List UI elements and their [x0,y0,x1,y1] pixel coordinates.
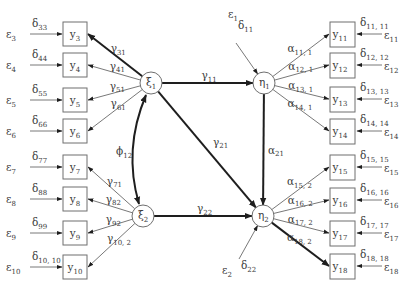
error-variance-delta8: δ88 [32,182,47,197]
loading-label-alpha131: α13, 1 [288,79,313,94]
error-variance-delta12: δ12, 12 [360,47,389,62]
disturbance-label-eps1: ε1 [228,8,238,23]
sem-path-diagram: y3ε3δ33γ31y4ε4δ44γ41y5ε5δ55γ51y6ε6δ66γ61… [0,0,418,292]
error-label-eps14: ε14 [384,126,399,141]
loading-label-gamma71: γ71 [107,175,122,190]
disturbance-variance-delta11: δ11 [238,19,253,34]
error-label-eps7: ε7 [6,161,16,176]
error-variance-delta16: δ16, 16 [360,182,389,197]
error-label-eps10: ε10 [6,261,20,276]
disturbance-arrow-eta1 [236,43,258,74]
error-variance-delta14: δ14, 14 [360,113,389,128]
error-variance-delta7: δ77 [32,150,47,165]
disturbance-variance-delta22: δ22 [241,259,256,274]
structural-label-γ22: γ22 [197,202,212,217]
error-label-eps8: ε8 [6,193,16,208]
error-label-eps12: ε12 [384,60,398,75]
loading-label-alpha141: α14, 1 [287,97,312,112]
error-variance-delta9: δ99 [32,216,47,231]
error-label-eps13: ε13 [384,94,398,109]
structural-label-α21: α21 [268,144,284,159]
error-label-eps9: ε9 [6,227,16,242]
covariance-curve-phi12 [132,95,146,204]
loading-label-alpha152: α15, 2 [287,175,312,190]
structural-label-γ11: γ11 [202,69,217,84]
loading-label-gamma102: γ10, 2 [107,232,131,247]
loading-label-alpha182: α18, 2 [287,231,312,246]
disturbance-arrow-eta2 [239,226,258,259]
error-variance-delta18: δ18, 18 [360,248,389,263]
error-label-eps17: ε17 [384,228,398,243]
loading-label-alpha121: α12, 1 [288,60,313,75]
error-label-eps6: ε6 [6,125,16,140]
error-label-eps4: ε4 [6,59,16,74]
loading-label-alpha162: α16, 2 [288,194,313,209]
error-label-eps16: ε16 [384,195,399,210]
loading-label-alpha111: α11, 1 [287,42,312,57]
error-variance-delta15: δ15, 15 [360,149,389,164]
loading-label-gamma51: γ51 [110,80,125,95]
structural-label-γ21: γ21 [213,136,228,151]
error-label-eps15: ε15 [384,162,398,177]
error-variance-delta6: δ66 [32,114,48,129]
loading-path-gamma61 [88,90,142,131]
error-variance-delta13: δ13, 13 [360,81,389,96]
error-label-eps18: ε18 [384,261,398,276]
loading-label-gamma61: γ61 [111,97,126,112]
disturbance-label-eps2: ε2 [222,264,232,279]
error-variance-delta10: δ10, 10 [32,250,61,265]
structural-path-xi1-eta2 [158,91,256,207]
error-variance-delta11: δ11, 11 [360,16,389,31]
covariance-label-phi12: ϕ12 [116,145,132,160]
loading-label-alpha172: α17, 2 [288,213,313,228]
error-variance-delta17: δ17, 17 [360,215,389,230]
error-variance-delta5: δ55 [32,83,47,98]
error-label-eps11: ε11 [384,29,398,44]
error-variance-delta3: δ33 [32,17,47,32]
error-label-eps5: ε5 [6,94,16,109]
structural-path-eta1-eta2 [263,94,264,205]
error-variance-delta4: δ44 [32,48,48,63]
error-label-eps3: ε3 [6,28,16,43]
diagram-canvas: y3ε3δ33γ31y4ε4δ44γ41y5ε5δ55γ51y6ε6δ66γ61… [0,0,418,292]
loading-label-gamma92: γ92 [106,213,121,228]
